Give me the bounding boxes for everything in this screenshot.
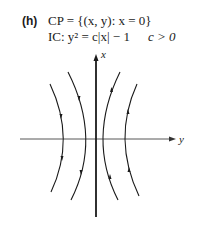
x-axis-critical-line xyxy=(94,54,99,217)
arrow-up-icon xyxy=(127,109,130,114)
y-axis xyxy=(20,137,176,142)
phase-portrait xyxy=(0,0,197,225)
curve-outer-right xyxy=(125,84,139,196)
x-axis-label: x xyxy=(101,48,106,60)
curve-outer-left xyxy=(50,84,63,192)
arrow-down-icon xyxy=(60,114,63,119)
y-axis-label: y xyxy=(179,133,184,145)
curve-inner-left xyxy=(68,72,86,200)
direction-arrows xyxy=(60,87,131,179)
arrow-up-icon xyxy=(128,167,131,172)
